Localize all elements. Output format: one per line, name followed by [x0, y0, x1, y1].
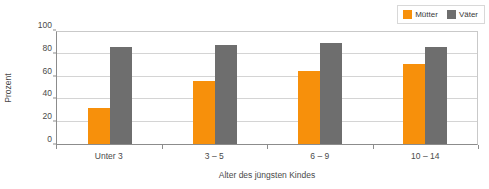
bar-mütter-2 [298, 71, 320, 144]
bar-groups [57, 32, 477, 144]
y-tick-label: 20 [43, 111, 52, 121]
y-tick-label: 40 [43, 88, 52, 98]
x-axis-ticks [56, 145, 478, 150]
y-tick-label: 0 [47, 134, 52, 144]
bar-väter-1 [215, 45, 237, 144]
y-tick-label: 60 [43, 66, 52, 76]
x-axis-labels: Unter 33 – 56 – 910 – 14 [56, 151, 478, 161]
x-tick-mark [162, 145, 163, 149]
legend-label-vaeter: Väter [459, 10, 478, 20]
bar-mütter-0 [88, 108, 110, 144]
bar-group [162, 32, 267, 144]
x-tick-mark [267, 145, 268, 149]
legend-label-muetter: Mütter [415, 10, 438, 20]
bar-group [57, 32, 162, 144]
bar-väter-0 [110, 47, 132, 144]
y-axis-ticks: 020406080100 [0, 31, 56, 145]
plot-area [56, 31, 478, 145]
x-tick-label: 10 – 14 [373, 151, 479, 161]
y-tick-label: 80 [43, 43, 52, 53]
bar-group [267, 32, 372, 144]
x-tick-label: 3 – 5 [162, 151, 268, 161]
bar-mütter-1 [193, 81, 215, 144]
legend-entry-vaeter: Väter [447, 10, 478, 20]
legend-entry-muetter: Mütter [403, 10, 438, 20]
bar-väter-3 [425, 47, 447, 144]
bar-väter-2 [320, 43, 342, 144]
x-tick-mark [478, 145, 479, 149]
x-tick-label: Unter 3 [56, 151, 162, 161]
bar-group [372, 32, 477, 144]
legend-swatch-muetter [403, 10, 412, 19]
bar-mütter-3 [403, 64, 425, 144]
chart-legend: Mütter Väter [397, 5, 485, 24]
bar-chart: Mütter Väter Prozent 020406080100 Unter … [0, 0, 489, 189]
x-tick-label: 6 – 9 [267, 151, 373, 161]
x-tick-mark [373, 145, 374, 149]
legend-swatch-vaeter [447, 10, 456, 19]
x-axis-title: Alter des jüngsten Kindes [56, 170, 478, 180]
y-tick-label: 100 [38, 20, 52, 30]
x-tick-mark [56, 145, 57, 149]
